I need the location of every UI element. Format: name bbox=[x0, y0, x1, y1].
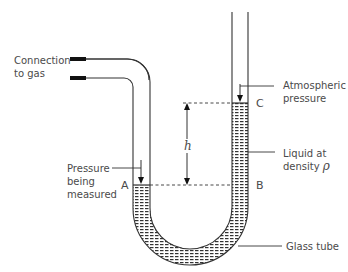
liquid-label: Liquid at density ρ bbox=[283, 148, 330, 173]
atmospheric-label: Atmospheric pressure bbox=[283, 80, 348, 104]
glass-tube bbox=[86, 12, 248, 265]
point-a-label: A bbox=[121, 179, 129, 192]
pressure-label: Pressure being measured bbox=[67, 163, 117, 200]
point-c-label: C bbox=[256, 97, 264, 110]
point-b-label: B bbox=[256, 179, 264, 192]
connection-stub-bottom bbox=[70, 76, 86, 80]
height-label: h bbox=[184, 139, 192, 153]
manometer-diagram: h Connection to gas Atmospheric pressure… bbox=[0, 0, 348, 272]
glass-tube-label: Glass tube bbox=[286, 241, 339, 252]
tube-left-outer bbox=[86, 12, 232, 249]
connection-label: Connection to gas bbox=[14, 55, 74, 79]
tube-left-inner bbox=[86, 12, 248, 265]
